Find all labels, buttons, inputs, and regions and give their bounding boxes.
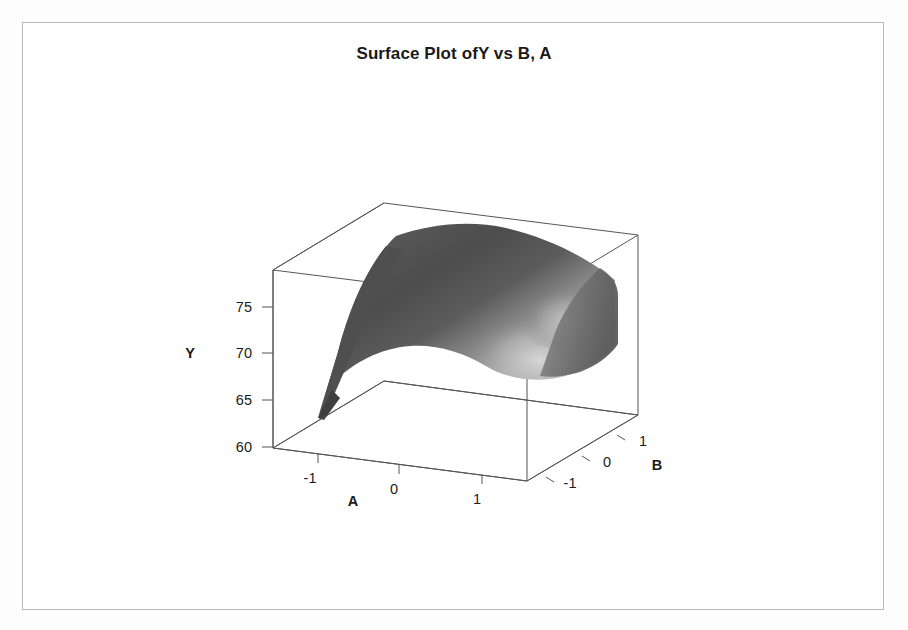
surface-plot-canvas: 75 70 65 60 Y -1 0 1 A -1 bbox=[0, 0, 908, 630]
y-tick-label-65: 65 bbox=[236, 392, 252, 408]
y-axis: 75 70 65 60 Y bbox=[185, 299, 273, 455]
a-tick-label-0: 0 bbox=[390, 481, 398, 497]
a-tick-label-1: 1 bbox=[473, 491, 481, 507]
b-axis: -1 0 1 B bbox=[546, 433, 662, 491]
y-tick-label-60: 60 bbox=[236, 439, 252, 455]
y-tick-label-70: 70 bbox=[236, 345, 252, 361]
b-tick-label-0: 0 bbox=[603, 454, 611, 470]
y-axis-title: Y bbox=[185, 345, 195, 361]
a-tick-label-neg1: -1 bbox=[304, 470, 317, 486]
b-tick-label-neg1: -1 bbox=[564, 475, 577, 491]
b-axis-title: B bbox=[652, 457, 662, 473]
b-tick-label-1: 1 bbox=[639, 433, 647, 449]
y-axis-ticks bbox=[262, 307, 273, 447]
response-surface bbox=[318, 224, 618, 420]
a-axis: -1 0 1 A bbox=[304, 454, 482, 509]
a-axis-ticks bbox=[318, 454, 482, 484]
y-tick-label-75: 75 bbox=[236, 299, 252, 315]
surface-plot-figure: Surface Plot ofY vs B, A bbox=[0, 0, 908, 630]
a-axis-title: A bbox=[348, 493, 359, 509]
b-axis-ticks bbox=[546, 435, 625, 482]
